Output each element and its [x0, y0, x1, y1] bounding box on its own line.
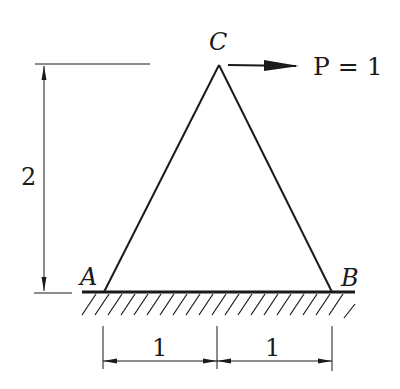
- member-cb: [219, 65, 332, 292]
- height-label: 2: [21, 163, 36, 191]
- load-label: P = 1: [313, 52, 383, 81]
- height-dimension: [34, 64, 150, 293]
- left-span-label: 1: [152, 334, 167, 362]
- span-dimension: [103, 326, 332, 371]
- right-span-label: 1: [265, 334, 280, 362]
- truss-diagram: C A B P = 1 2 1 1: [0, 0, 400, 389]
- node-label-b: B: [340, 264, 359, 292]
- load-arrow: [228, 60, 299, 71]
- node-label-c: C: [209, 28, 227, 56]
- node-label-a: A: [78, 263, 97, 291]
- member-ac: [104, 65, 219, 292]
- ground-support: [82, 292, 355, 318]
